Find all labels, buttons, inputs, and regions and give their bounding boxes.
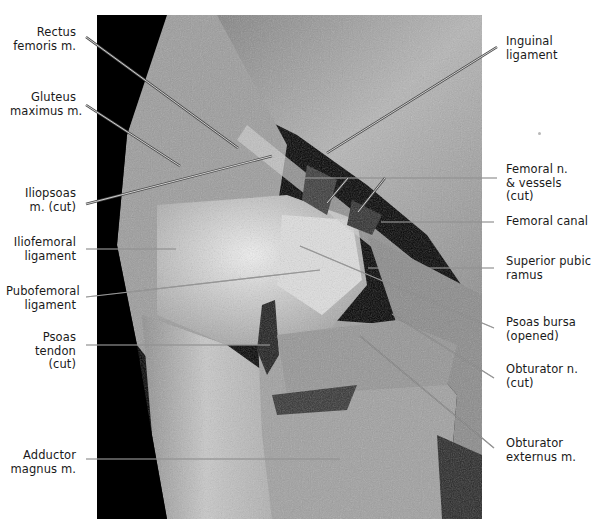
- label-iliofemoral-ligament: Iliofemoralligament: [10, 236, 76, 263]
- label-line: Inguinal: [506, 35, 558, 49]
- label-femoral-canal: Femoral canal: [506, 215, 588, 229]
- label-pubofemoral-ligament: Pubofemoralligament: [6, 285, 76, 312]
- label-line: externus m.: [506, 451, 576, 465]
- label-line: Iliopsoas: [10, 187, 76, 201]
- label-line: Femoral canal: [506, 215, 588, 229]
- label-line: femoris m.: [12, 40, 76, 54]
- label-line: Obturator n.: [506, 363, 578, 377]
- label-obturator-nerve: Obturator n.(cut): [506, 363, 578, 390]
- label-line: Rectus: [12, 26, 76, 40]
- stray-mark: [538, 132, 541, 135]
- label-line: ligament: [6, 299, 76, 313]
- label-line: & vessels: [506, 177, 568, 191]
- label-line: (cut): [10, 358, 76, 372]
- label-line: ramus: [506, 269, 591, 283]
- hip-dissection-image: [97, 15, 482, 519]
- label-psoas-tendon: Psoastendon(cut): [10, 331, 76, 372]
- label-line: (cut): [506, 377, 578, 391]
- label-line: ligament: [506, 49, 558, 63]
- label-iliopsoas: Iliopsoasm. (cut): [10, 187, 76, 214]
- label-gluteus-maximus: Gluteusmaximus m.: [10, 91, 76, 118]
- label-line: Iliofemoral: [10, 236, 76, 250]
- label-inguinal-ligament: Inguinalligament: [506, 35, 558, 62]
- label-line: Obturator: [506, 437, 576, 451]
- label-psoas-bursa: Psoas bursa(opened): [506, 316, 576, 343]
- label-line: tendon: [10, 345, 76, 359]
- label-superior-pubic-ramus: Superior pubicramus: [506, 255, 591, 282]
- label-line: Psoas: [10, 331, 76, 345]
- label-femoral-nerve-vessels: Femoral n.& vessels(cut): [506, 163, 568, 204]
- label-line: ligament: [10, 250, 76, 264]
- label-line: (opened): [506, 330, 576, 344]
- label-line: maximus m.: [10, 105, 76, 119]
- label-line: (cut): [506, 190, 568, 204]
- label-line: Gluteus: [10, 91, 76, 105]
- label-line: Superior pubic: [506, 255, 591, 269]
- label-line: magnus m.: [10, 463, 76, 477]
- label-rectus-femoris: Rectusfemoris m.: [12, 26, 76, 53]
- label-obturator-externus: Obturatorexternus m.: [506, 437, 576, 464]
- label-line: Adductor: [10, 449, 76, 463]
- label-line: Psoas bursa: [506, 316, 576, 330]
- label-line: Pubofemoral: [6, 285, 76, 299]
- dissection-photo: [97, 15, 482, 519]
- label-line: m. (cut): [10, 201, 76, 215]
- label-line: Femoral n.: [506, 163, 568, 177]
- label-adductor-magnus: Adductormagnus m.: [10, 449, 76, 476]
